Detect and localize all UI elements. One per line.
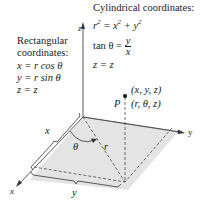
rectangular-eq-x: x = r cos θ (17, 60, 63, 72)
eq-x: = x (103, 20, 117, 31)
cylindrical-eq-r: r2 = x2 + y2 (93, 16, 142, 32)
z-axis-label: z (78, 22, 82, 34)
x-axis-arrow (16, 180, 22, 187)
eq-y: + y (121, 20, 138, 31)
sup: 2 (97, 18, 101, 26)
cylindrical-title: Cylindrical coordinates: (93, 2, 194, 14)
point-rect-coords: (x, y, z) (131, 84, 161, 96)
rectangular-title-2: coordinates: (17, 47, 68, 59)
rectangular-title-1: Rectangular (17, 35, 68, 47)
x-axis-label: x (10, 185, 14, 197)
tan-label: tan θ = (93, 40, 122, 51)
brace-y-label: y (72, 187, 77, 199)
denominator: x (125, 47, 132, 57)
cylindrical-eq-tan: tan θ = yx (93, 36, 131, 57)
theta-label: θ (73, 141, 78, 153)
point-p (123, 94, 127, 98)
cylindrical-eq-z: z = z (93, 59, 114, 71)
rectangular-eq-y: y = r sin θ (17, 72, 61, 84)
brace-x-label: x (45, 125, 50, 137)
point-label: P (114, 98, 120, 110)
r-label: r (104, 141, 108, 153)
sup: 2 (138, 18, 142, 26)
y-axis-arrow (178, 130, 186, 135)
rectangular-eq-z: z = z (17, 84, 38, 96)
y-axis-label: y (188, 126, 193, 138)
fraction: yx (125, 36, 132, 57)
point-cyl-coords: (r, θ, z) (131, 98, 161, 110)
